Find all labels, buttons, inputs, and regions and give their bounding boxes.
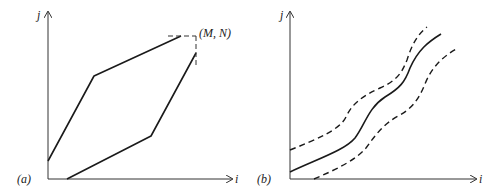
endpoint-label: (M, N) bbox=[199, 26, 231, 40]
j-label-a: j bbox=[35, 8, 41, 22]
warping-path-diagram: j i (M, N) (a) j i (b) bbox=[0, 0, 492, 192]
j-label-b: j bbox=[278, 8, 284, 22]
i-label-a: i bbox=[235, 172, 238, 186]
upper-boundary-line bbox=[48, 36, 181, 161]
panel-a: j i (M, N) (a) bbox=[17, 8, 238, 186]
panel-label-a: (a) bbox=[17, 172, 31, 186]
panel-label-b: (b) bbox=[257, 172, 271, 186]
lower-band-boundary bbox=[314, 48, 458, 179]
warping-path bbox=[290, 34, 441, 172]
i-label-b: i bbox=[479, 172, 482, 186]
lower-boundary-line bbox=[67, 53, 196, 179]
panel-b: j i (b) bbox=[257, 8, 482, 186]
